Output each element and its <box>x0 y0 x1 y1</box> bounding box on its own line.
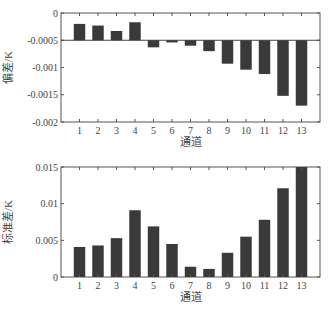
bar <box>129 210 140 277</box>
x-tick-label: 2 <box>96 280 101 291</box>
x-tick-label: 6 <box>170 125 175 136</box>
x-tick-label: 11 <box>260 280 270 291</box>
x-tick-label: 13 <box>297 280 307 291</box>
x-tick-label: 8 <box>207 280 212 291</box>
bar <box>240 40 251 69</box>
x-tick-label: 4 <box>133 280 138 291</box>
bar <box>240 237 251 277</box>
y-tick-label: 0 <box>53 8 58 19</box>
y-tick-label: -0.001 <box>32 62 58 73</box>
bar <box>74 24 85 40</box>
x-tick-label: 10 <box>241 125 251 136</box>
x-tick-label: 13 <box>297 125 307 136</box>
x-tick-label: 3 <box>114 125 119 136</box>
y-axis-label: 标准差/K <box>1 200 14 244</box>
bar <box>277 188 288 277</box>
bar <box>277 40 288 96</box>
bar <box>92 26 103 41</box>
x-tick-label: 4 <box>133 125 138 136</box>
bar <box>166 40 177 42</box>
bar <box>111 31 122 40</box>
x-tick-label: 7 <box>188 280 193 291</box>
y-tick-label: -0.002 <box>32 117 58 128</box>
x-tick-label: 12 <box>278 125 288 136</box>
x-tick-label: 2 <box>96 125 101 136</box>
bar <box>203 40 214 51</box>
x-tick-label: 5 <box>151 280 156 291</box>
x-tick-label: 11 <box>260 125 270 136</box>
x-tick-label: 8 <box>207 125 212 136</box>
x-axis-label: 通道 <box>180 290 202 303</box>
x-tick-label: 7 <box>188 125 193 136</box>
x-tick-label: 9 <box>225 280 230 291</box>
bar <box>129 22 140 40</box>
std-chart: 0.0150.010.005012345678910111213通道标准差/K <box>1 162 320 304</box>
x-tick-label: 1 <box>77 125 82 136</box>
x-tick-label: 5 <box>151 125 156 136</box>
x-tick-label: 10 <box>241 280 251 291</box>
x-tick-label: 6 <box>170 280 175 291</box>
x-tick-label: 1 <box>77 280 82 291</box>
y-tick-label: -0.0005 <box>27 35 58 46</box>
bar <box>222 253 233 277</box>
bias-chart: 0-0.0005-0.001-0.0015-0.0021234567891011… <box>1 8 320 149</box>
x-axis-label: 通道 <box>180 135 202 148</box>
bar <box>259 220 270 277</box>
x-tick-label: 9 <box>225 125 230 136</box>
bar <box>185 40 196 45</box>
bar <box>296 40 307 105</box>
bar <box>148 226 159 277</box>
x-tick-label: 12 <box>278 280 288 291</box>
bar <box>92 245 103 277</box>
bar <box>222 40 233 63</box>
y-tick-label: -0.0015 <box>27 89 58 100</box>
chart-canvas: 0-0.0005-0.001-0.0015-0.0021234567891011… <box>0 0 330 313</box>
y-tick-label: 0.01 <box>41 198 59 209</box>
bar <box>296 167 307 277</box>
y-tick-label: 0.015 <box>36 162 59 173</box>
x-tick-label: 3 <box>114 280 119 291</box>
bar <box>259 40 270 74</box>
y-tick-label: 0.005 <box>36 235 59 246</box>
bar <box>74 247 85 277</box>
y-axis-label: 偏差/K <box>1 51 14 84</box>
bar <box>166 244 177 277</box>
y-tick-label: 0 <box>53 272 58 283</box>
bar <box>148 40 159 47</box>
bar <box>111 238 122 277</box>
